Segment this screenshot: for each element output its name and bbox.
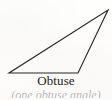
obtuse-triangle-shape bbox=[9, 10, 108, 73]
figure-caption: Obtuse (one obtuse angle) bbox=[0, 74, 112, 98]
caption-primary-label: Obtuse bbox=[0, 74, 112, 87]
obtuse-triangle-figure: Obtuse (one obtuse angle) bbox=[0, 0, 112, 100]
caption-secondary-label: (one obtuse angle) bbox=[0, 89, 112, 98]
